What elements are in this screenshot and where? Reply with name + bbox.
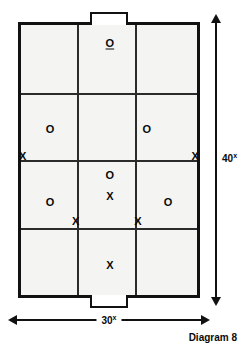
playing-field: OOOXXOXOOXXX (18, 22, 200, 298)
field-row-divider (21, 93, 197, 95)
player-marker-x: X (106, 260, 113, 271)
player-marker-x: X (134, 215, 141, 226)
goal-top (90, 12, 128, 25)
field-column-divider (135, 25, 137, 295)
player-marker-o: O (46, 123, 55, 134)
player-marker-x: X (192, 150, 199, 161)
dimension-unit-vertical: x (233, 152, 237, 159)
player-marker-x: X (72, 215, 79, 226)
field-row-divider (21, 160, 197, 162)
dimension-label-horizontal: 30x (96, 314, 121, 326)
dimension-line-horizontal: 30x (16, 319, 202, 321)
dimension-value-vertical: 40 (222, 153, 233, 164)
player-marker-x: X (106, 191, 113, 202)
field-column-divider (77, 25, 79, 295)
dimension-unit-horizontal: x (113, 314, 117, 321)
arrow-up-icon (211, 14, 221, 23)
dimension-label-vertical: 40x (222, 152, 237, 164)
player-marker-o: O (46, 196, 55, 207)
arrow-left-icon (8, 315, 17, 325)
field-row-divider (21, 228, 197, 230)
player-marker-o: O (106, 37, 115, 48)
arrow-down-icon (211, 297, 221, 306)
player-marker-o: O (143, 123, 152, 134)
player-marker-o: O (106, 169, 115, 180)
player-marker-o: O (164, 196, 173, 207)
diagram-caption: Diagram 8 (189, 332, 237, 343)
player-marker-x: X (19, 150, 26, 161)
dimension-value-horizontal: 30 (101, 315, 112, 326)
diagram-canvas: OOOXXOXOOXXX 40x 30x Diagram 8 (0, 0, 245, 355)
arrow-right-icon (201, 315, 210, 325)
goal-bottom (90, 295, 128, 308)
dimension-line-vertical (215, 22, 217, 298)
